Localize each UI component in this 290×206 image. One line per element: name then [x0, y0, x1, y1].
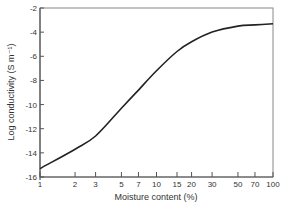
y-tick-label: -4	[30, 28, 38, 37]
x-axis-title: Moisture content (%)	[114, 192, 197, 202]
y-tick-label: -14	[25, 149, 37, 158]
x-tick-label: 70	[251, 180, 260, 189]
plot-border	[40, 8, 273, 177]
x-tick-label: 10	[152, 180, 161, 189]
x-tick-label: 15	[173, 180, 182, 189]
x-tick-label: 5	[119, 180, 124, 189]
x-tick-label: 1	[38, 180, 43, 189]
y-axis-title: Log conductivity (S m⁻¹)	[6, 43, 16, 140]
data-line	[40, 24, 273, 169]
x-tick-label: 20	[187, 180, 196, 189]
x-tick-label: 2	[73, 180, 78, 189]
y-tick-label: -10	[25, 101, 37, 110]
y-tick-label: -12	[25, 125, 37, 134]
y-axis: -2-4-6-8-10-12-14-16	[25, 4, 44, 182]
x-tick-label: 30	[208, 180, 217, 189]
x-tick-label: 3	[93, 180, 98, 189]
x-tick-label: 100	[266, 180, 280, 189]
y-tick-label: -8	[30, 76, 38, 85]
plot-frame	[40, 8, 273, 180]
y-tick-label: -16	[25, 173, 37, 182]
x-tick-label: 50	[233, 180, 242, 189]
x-axis: 12357101520305070100	[38, 172, 280, 189]
y-tick-label: -6	[30, 52, 38, 61]
x-tick-label: 7	[136, 180, 141, 189]
conductivity-chart: -2-4-6-8-10-12-14-16 1235710152030507010…	[0, 0, 290, 206]
y-tick-label: -2	[30, 4, 38, 13]
